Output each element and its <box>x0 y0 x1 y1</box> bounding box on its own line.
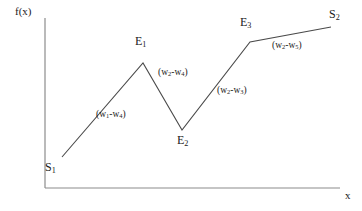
edge-label-e1-e2: (w2-w4) <box>158 68 188 78</box>
vertex-label-e3: E3 <box>240 16 251 30</box>
figure-container: f(x) x S1 E1 E2 E3 S2 (w1-w4) (w2-w4) (w… <box>0 0 362 211</box>
edge1-open: (w <box>96 109 106 119</box>
vertex-label-s1: S1 <box>45 161 56 175</box>
vertex-e2-sub: 2 <box>184 139 188 148</box>
vertex-label-e1: E1 <box>135 35 146 49</box>
edge4-dash: -w <box>285 40 295 50</box>
vertex-s1-base: S <box>45 160 52 174</box>
edge-label-e3-s2: (w2-w5) <box>272 41 302 51</box>
vertex-label-e2: E2 <box>177 134 188 148</box>
vertex-label-s2: S2 <box>329 8 340 22</box>
edge1-close: ) <box>123 109 126 119</box>
edge4-close: ) <box>299 40 302 50</box>
edge3-close: ) <box>244 85 247 95</box>
edge3-dash: -w <box>230 85 240 95</box>
edge4-open: (w <box>272 40 282 50</box>
vertex-e1-sub: 1 <box>142 40 146 49</box>
vertex-s2-base: S <box>329 7 336 21</box>
edge2-open: (w <box>158 67 168 77</box>
edge2-dash: -w <box>171 67 181 77</box>
vertex-s2-sub: 2 <box>336 13 340 22</box>
plot-canvas <box>0 0 362 211</box>
edge-label-e2-e3: (w2-w3) <box>217 86 247 96</box>
y-axis-label: f(x) <box>15 6 32 17</box>
edge-label-s1-e1: (w1-w4) <box>96 110 126 120</box>
edge2-close: ) <box>185 67 188 77</box>
vertex-e3-sub: 3 <box>247 21 251 30</box>
vertex-s1-sub: 1 <box>52 166 56 175</box>
edge3-open: (w <box>217 85 227 95</box>
x-axis-label: x <box>345 190 351 201</box>
edge1-dash: -w <box>109 109 119 119</box>
